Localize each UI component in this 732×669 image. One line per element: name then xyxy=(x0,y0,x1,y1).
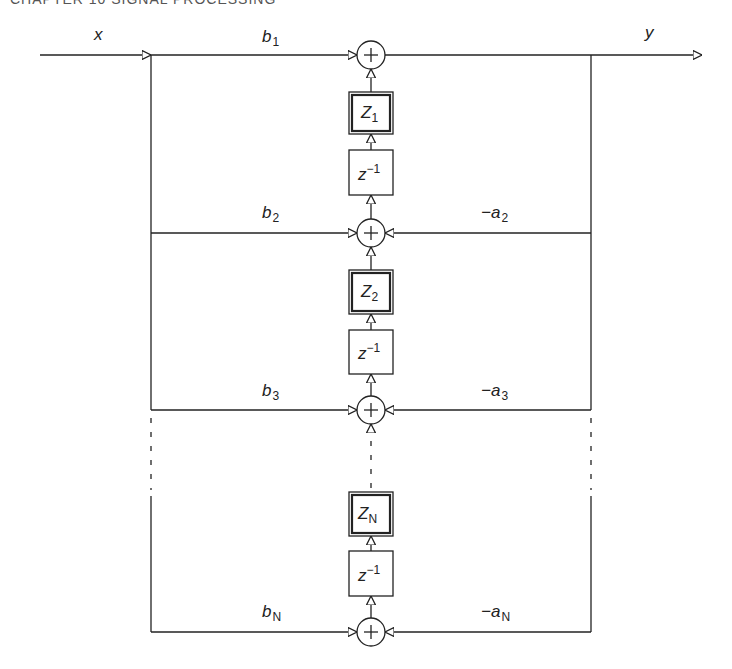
coef-bN: bN xyxy=(262,602,281,624)
coef-b3: b3 xyxy=(262,381,279,403)
coef-aN: −aN xyxy=(481,602,510,624)
coef-b2: b2 xyxy=(262,203,279,225)
sum-node-3 xyxy=(357,396,385,424)
iir-block-diagram: x y b1 b2 b3 bN −a2 −a3 −aN Z1 Z2 ZN z−1… xyxy=(0,0,732,669)
output-label-y: y xyxy=(644,23,655,42)
coef-b1: b1 xyxy=(262,27,279,49)
sum-node-N xyxy=(357,618,385,646)
sum-node-1 xyxy=(357,41,385,69)
coef-a2: −a2 xyxy=(481,203,508,225)
coef-a3: −a3 xyxy=(481,381,508,403)
sum-node-2 xyxy=(357,219,385,247)
input-label-x: x xyxy=(93,25,103,44)
